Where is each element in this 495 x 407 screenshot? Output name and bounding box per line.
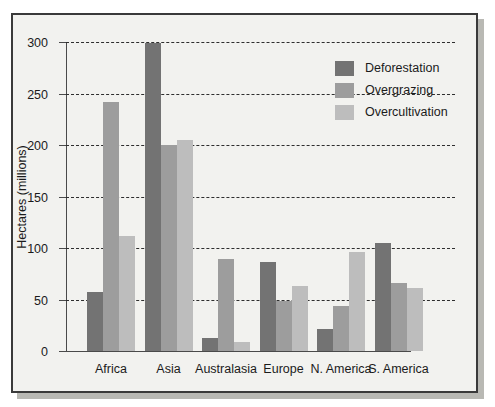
bar[interactable]	[177, 140, 193, 351]
bar-group: Africa	[87, 42, 135, 351]
x-axis-line	[66, 351, 411, 352]
legend-swatch-icon	[335, 105, 354, 120]
y-axis-tick: 150	[59, 197, 66, 198]
legend-item[interactable]: Overgrazing	[335, 79, 448, 101]
chart-screenshot: 050100150200250300 Hectares (millions) A…	[0, 0, 495, 407]
bar[interactable]	[218, 259, 234, 351]
bar[interactable]	[391, 283, 407, 351]
y-axis-tick-label: 150	[27, 191, 48, 205]
legend-swatch-icon	[335, 83, 354, 98]
bar[interactable]	[375, 243, 391, 351]
bar-group: Australasia	[202, 42, 250, 351]
bar[interactable]	[202, 338, 218, 351]
y-axis-tick: 300	[59, 42, 66, 43]
bar[interactable]	[234, 342, 250, 351]
bar[interactable]	[276, 301, 292, 351]
y-axis-tick: 100	[59, 248, 66, 249]
x-axis-category-label: Africa	[95, 362, 127, 376]
bar[interactable]	[292, 286, 308, 351]
legend-label: Overcultivation	[365, 105, 448, 119]
bar-group: Europe	[260, 42, 308, 351]
bar[interactable]	[161, 145, 177, 351]
y-axis-tick: 200	[59, 145, 66, 146]
x-axis-category-label: Australasia	[195, 362, 257, 376]
y-axis-tick-label: 50	[34, 294, 48, 308]
bar[interactable]	[260, 262, 276, 351]
bar[interactable]	[349, 252, 365, 351]
legend-item[interactable]: Overcultivation	[335, 101, 448, 123]
legend-item[interactable]: Deforestation	[335, 57, 448, 79]
bar[interactable]	[145, 43, 161, 351]
y-axis-tick-label: 300	[27, 36, 48, 50]
y-axis-tick-label: 250	[27, 88, 48, 102]
y-axis-tick: 250	[59, 94, 66, 95]
legend-label: Deforestation	[365, 61, 439, 75]
bar[interactable]	[119, 236, 135, 351]
bar[interactable]	[407, 288, 423, 351]
legend-label: Overgrazing	[365, 83, 433, 97]
figure-frame: 050100150200250300 Hectares (millions) A…	[11, 13, 478, 393]
bar[interactable]	[103, 102, 119, 351]
y-axis-title: Hectares (millions)	[15, 145, 29, 249]
bar[interactable]	[333, 306, 349, 351]
chart-legend: DeforestationOvergrazingOvercultivation	[335, 57, 448, 123]
y-axis-tick-label: 100	[27, 242, 48, 256]
x-axis-category-label: S. America	[368, 362, 428, 376]
x-axis-category-label: Europe	[263, 362, 303, 376]
y-axis-tick-label: 0	[41, 345, 48, 359]
y-axis-tick: 50	[59, 300, 66, 301]
bar-group: Asia	[145, 42, 193, 351]
y-axis-tick: 0	[59, 351, 66, 352]
bar[interactable]	[87, 292, 103, 351]
legend-swatch-icon	[335, 61, 354, 76]
x-axis-category-label: N. America	[310, 362, 371, 376]
x-axis-category-label: Asia	[156, 362, 180, 376]
bar[interactable]	[317, 329, 333, 351]
y-axis-tick-label: 200	[27, 139, 48, 153]
